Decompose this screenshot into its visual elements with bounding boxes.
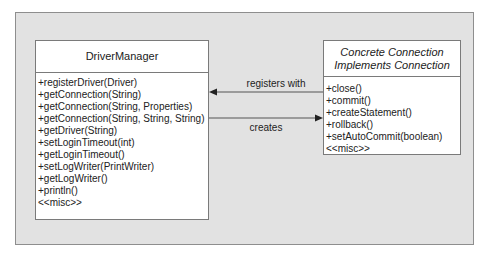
class-header: DriverManager [36, 41, 208, 73]
method-item: +getConnection(String, String, String) [38, 113, 208, 125]
class-subtitle: Implements Connection [324, 59, 460, 72]
method-item: +registerDriver(Driver) [38, 77, 208, 89]
registers-with-label: registers with [236, 78, 316, 90]
method-item: +getConnection(String, Properties) [38, 101, 208, 113]
method-item: +commit() [326, 95, 460, 107]
stereotype-misc: <<misc>> [326, 143, 460, 155]
class-header: Concrete Connection Implements Connectio… [324, 41, 460, 77]
method-item: +createStatement() [326, 107, 460, 119]
method-list: +registerDriver(Driver) +getConnection(S… [36, 73, 208, 209]
method-item: +getDriver(String) [38, 125, 208, 137]
class-title: DriverManager [36, 50, 208, 63]
stereotype-misc: <<misc>> [38, 197, 208, 209]
method-item: +setAutoCommit(boolean) [326, 131, 460, 143]
method-list: +close() +commit() +createStatement() +r… [324, 77, 460, 155]
method-item: +getLogWriter() [38, 173, 208, 185]
arrowhead-left-icon [209, 89, 217, 96]
class-title: Concrete Connection [324, 46, 460, 59]
class-concrete-connection: Concrete Connection Implements Connectio… [323, 40, 461, 155]
method-item: +getLoginTimeout() [38, 149, 208, 161]
method-item: +setLoginTimeout(int) [38, 137, 208, 149]
method-item: +getConnection(String) [38, 89, 208, 101]
arrowhead-right-icon [315, 115, 323, 122]
method-item: +rollback() [326, 119, 460, 131]
class-driver-manager: DriverManager +registerDriver(Driver) +g… [35, 40, 209, 220]
method-item: +close() [326, 83, 460, 95]
creates-label: creates [236, 122, 296, 134]
method-item: +setLogWriter(PrintWriter) [38, 161, 208, 173]
method-item: +println() [38, 185, 208, 197]
